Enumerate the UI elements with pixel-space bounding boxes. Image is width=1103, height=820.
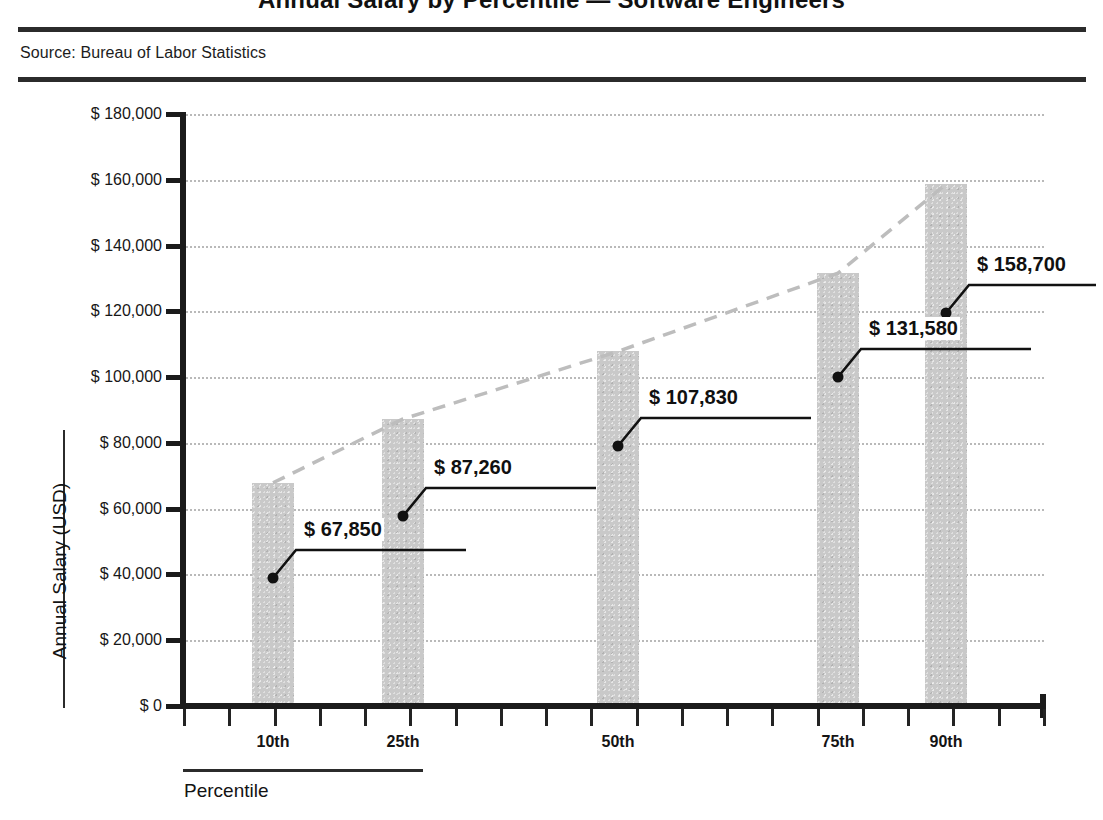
y-axis-tick-label: $ 100,000 bbox=[52, 368, 162, 386]
x-axis-tick-label: 90th bbox=[901, 733, 991, 751]
x-axis-title: Percentile bbox=[184, 780, 269, 802]
leader-line bbox=[618, 418, 811, 446]
x-axis-tick-label: 10th bbox=[228, 733, 318, 751]
y-axis-tick-label: $ 140,000 bbox=[52, 237, 162, 255]
y-axis-title: Annual Salary (USD) bbox=[49, 431, 71, 711]
x-axis-tick bbox=[1043, 709, 1046, 726]
gridline bbox=[186, 114, 1044, 116]
gridline bbox=[186, 246, 1044, 248]
y-axis-tick-label: $ 120,000 bbox=[52, 302, 162, 320]
x-axis-tick bbox=[409, 709, 412, 726]
bar[interactable] bbox=[817, 273, 859, 706]
x-axis-tick bbox=[681, 709, 684, 726]
data-value-label: $ 87,260 bbox=[432, 456, 514, 479]
gridline bbox=[186, 180, 1044, 182]
y-axis-tick-label: $ 180,000 bbox=[52, 105, 162, 123]
x-axis-line bbox=[180, 703, 1046, 709]
data-value-label: $ 158,700 bbox=[975, 253, 1068, 276]
bar[interactable] bbox=[925, 184, 967, 706]
x-axis-tick bbox=[500, 709, 503, 726]
data-value-label: $ 67,850 bbox=[302, 518, 384, 541]
x-axis-tick bbox=[726, 709, 729, 726]
x-axis-tick-label: 25th bbox=[358, 733, 448, 751]
x-axis-tick bbox=[183, 709, 186, 726]
x-axis-tick-label: 75th bbox=[793, 733, 883, 751]
leader-line bbox=[403, 488, 596, 516]
data-value-label: $ 131,580 bbox=[867, 317, 960, 340]
x-axis-tick bbox=[274, 709, 277, 726]
x-axis-tick bbox=[455, 709, 458, 726]
x-axis-tick bbox=[952, 709, 955, 726]
plot-area: $ 0$ 20,000$ 40,000$ 60,000$ 80,000$ 100… bbox=[0, 0, 1103, 820]
gridline bbox=[186, 311, 1044, 313]
x-axis-title-rule bbox=[183, 769, 423, 772]
x-axis-tick bbox=[545, 709, 548, 726]
x-axis-tick bbox=[907, 709, 910, 726]
x-axis-tick bbox=[998, 709, 1001, 726]
x-axis-tick bbox=[364, 709, 367, 726]
x-axis-tick bbox=[228, 709, 231, 726]
chart-page: Annual Salary by Percentile — Software E… bbox=[0, 0, 1103, 820]
y-axis-line bbox=[180, 112, 186, 709]
x-axis-tick bbox=[862, 709, 865, 726]
x-axis-tick bbox=[319, 709, 322, 726]
bar[interactable] bbox=[382, 419, 424, 706]
leader-line bbox=[946, 285, 1096, 313]
y-axis-tick-label: $ 160,000 bbox=[52, 171, 162, 189]
x-axis-tick bbox=[590, 709, 593, 726]
x-axis-tick-label: 50th bbox=[573, 733, 663, 751]
x-axis-tick bbox=[636, 709, 639, 726]
data-value-label: $ 107,830 bbox=[647, 386, 740, 409]
x-axis-tick bbox=[771, 709, 774, 726]
x-axis-tick bbox=[817, 709, 820, 726]
bar[interactable] bbox=[252, 483, 294, 706]
bar[interactable] bbox=[597, 351, 639, 706]
